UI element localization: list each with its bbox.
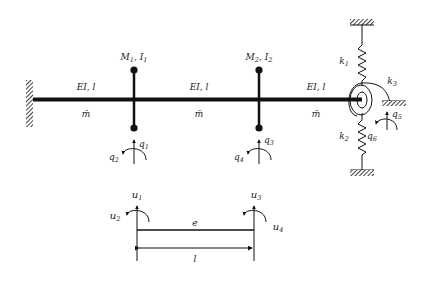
length-label: l xyxy=(194,254,197,264)
segment-2-mass-label: m̄ xyxy=(195,109,204,119)
q6-label: q6 xyxy=(367,131,377,143)
top-ground-hatch xyxy=(350,19,374,25)
dof-q5-q6: q5 q6 xyxy=(367,109,402,143)
lumped-mass-1: M1, I1 xyxy=(120,52,148,132)
beam-model-diagram: EI, l m̄ EI, l m̄ EI, l m̄ M1, I1 M2, I2… xyxy=(0,0,422,285)
lumped-mass-2: M2, I2 xyxy=(245,52,273,132)
element-label: e xyxy=(192,218,197,228)
dof-q1-q2: q1 q2 xyxy=(109,139,149,164)
u1-label: u1 xyxy=(132,189,143,202)
k3-label: k3 xyxy=(387,76,397,88)
segment-2-stiffness-label: EI, l xyxy=(189,82,209,92)
fixed-wall-support xyxy=(26,80,33,127)
mass-1-label: M1, I1 xyxy=(120,52,148,64)
q3-label: q3 xyxy=(264,135,274,147)
q1-label: q1 xyxy=(139,139,149,151)
u2-label: u2 xyxy=(110,210,121,223)
spring-k2: k2 xyxy=(339,113,374,176)
u4-rotation-arrow-icon xyxy=(244,210,266,222)
segment-3-stiffness-label: EI, l xyxy=(306,82,326,92)
segment-1-stiffness-label: EI, l xyxy=(76,82,96,92)
k1-label: k1 xyxy=(339,56,349,68)
q5-label: q5 xyxy=(392,109,402,121)
mass-2-top-dot xyxy=(255,66,262,73)
q2-label: q2 xyxy=(109,152,119,164)
u2-rotation-arrow-icon xyxy=(127,210,149,222)
beam-element-e: e l u1 u2 u3 u4 xyxy=(110,189,284,264)
wall-hatch xyxy=(26,80,33,127)
bottom-ground-hatch xyxy=(350,170,374,176)
mass-2-bottom-dot xyxy=(255,124,262,131)
mass-1-top-dot xyxy=(130,66,137,73)
spring-k1: k1 xyxy=(339,19,374,86)
mass-2-label: M2, I2 xyxy=(245,52,273,64)
q4-label: q4 xyxy=(234,152,244,164)
mass-1-bottom-dot xyxy=(130,124,137,131)
k2-label: k2 xyxy=(339,131,349,143)
u3-label: u3 xyxy=(251,189,262,202)
k2-spring-coil xyxy=(358,113,366,170)
segment-3-mass-label: m̄ xyxy=(312,109,321,119)
u4-label: u4 xyxy=(273,221,284,234)
k1-spring-coil xyxy=(358,25,366,86)
rotational-ground-hatch xyxy=(382,101,406,106)
dof-q3-q4: q3 q4 xyxy=(234,135,274,164)
segment-1-mass-label: m̄ xyxy=(82,109,91,119)
